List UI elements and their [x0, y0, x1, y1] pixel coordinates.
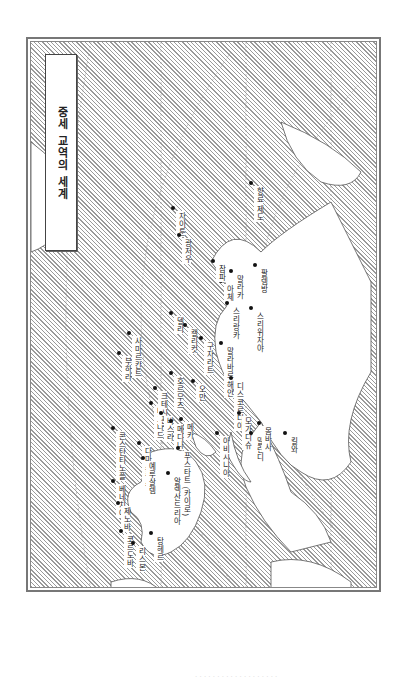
place-marker-icon — [153, 386, 157, 390]
place-label: 푸스타트 (카이로) — [181, 451, 190, 517]
map-area: 중세 교역의 세계 자이툰광저우향료 제도말라카팔렘방아체스리위자야참파스리랑카… — [30, 41, 377, 588]
place-marker-icon — [283, 431, 287, 435]
place-label: 리스본 — [136, 546, 145, 572]
place-marker-icon — [179, 417, 183, 421]
place-marker-icon — [237, 411, 241, 415]
place-marker-icon — [141, 456, 145, 460]
place-marker-icon — [225, 301, 229, 305]
place-marker-icon — [169, 311, 173, 315]
place-label: 아비시니아 — [220, 436, 229, 478]
map-frame: 중세 교역의 세계 자이툰광저우향료 제도말라카팔렘방아체스리위자야참파스리랑카… — [26, 37, 381, 592]
place-label: 스리랑카 — [230, 306, 239, 340]
place-marker-icon — [257, 421, 261, 425]
place-label: 구자라트 — [204, 341, 213, 375]
place-label: 콘스탄티노플 — [116, 431, 125, 481]
place-label: 코르도바 — [124, 534, 133, 568]
place-marker-icon — [169, 419, 173, 423]
footer-caption: · · · · · · · · · · · · · · · · · · · — [195, 673, 277, 681]
place-marker-icon — [159, 411, 163, 415]
place-marker-icon — [169, 371, 173, 375]
place-marker-icon — [111, 426, 115, 430]
place-label: 알렉산드리아 — [171, 476, 180, 526]
place-label: 탕헤르 — [154, 536, 163, 562]
place-marker-icon — [215, 431, 219, 435]
place-marker-icon — [177, 233, 181, 237]
place-marker-icon — [249, 431, 253, 435]
place-label: 델리 — [174, 316, 183, 334]
place-label: 아체 — [224, 284, 233, 302]
place-marker-icon — [116, 501, 120, 505]
place-marker-icon — [117, 351, 121, 355]
place-label: 말라바르 해안 — [224, 346, 233, 398]
place-label: 몸바사 — [262, 426, 271, 452]
place-marker-icon — [249, 181, 253, 185]
place-marker-icon — [176, 446, 180, 450]
place-label: 사마르칸트 — [132, 336, 141, 378]
place-marker-icon — [119, 529, 123, 533]
place-marker-icon — [183, 323, 187, 327]
place-marker-icon — [166, 471, 170, 475]
place-label: 제노바 — [121, 506, 130, 532]
place-marker-icon — [199, 336, 203, 340]
place-label: 킬와 — [288, 436, 297, 454]
place-marker-icon — [149, 531, 153, 535]
place-marker-icon — [137, 441, 141, 445]
place-label: 팔렘방 — [258, 268, 267, 294]
place-marker-icon — [127, 331, 131, 335]
place-marker-icon — [111, 479, 115, 483]
place-marker-icon — [149, 401, 153, 405]
place-marker-icon — [211, 259, 215, 263]
place-marker-icon — [253, 263, 257, 267]
map-title-box: 중세 교역의 세계 — [45, 54, 77, 251]
map-title: 중세 교역의 세계 — [53, 106, 69, 200]
place-marker-icon — [249, 306, 253, 310]
place-label: 말라카 — [234, 274, 243, 300]
place-label: 오만 — [196, 384, 205, 402]
place-label: 스리위자야 — [254, 311, 263, 353]
place-label: 광저우 — [182, 238, 191, 264]
place-marker-icon — [229, 269, 233, 273]
place-marker-icon — [229, 376, 233, 380]
place-label: 부하라 — [122, 356, 131, 382]
place-label: 캘리컷 — [188, 328, 197, 354]
place-label: 예루살렘 — [146, 461, 155, 495]
place-marker-icon — [191, 379, 195, 383]
place-marker-icon — [219, 341, 223, 345]
place-label: 메카 — [184, 422, 193, 440]
place-label: 참파 — [216, 264, 225, 282]
place-marker-icon — [171, 206, 175, 210]
place-marker-icon — [131, 541, 135, 545]
place-label: 호르무즈 — [174, 376, 183, 410]
place-label: 향료 제도 — [254, 186, 263, 222]
map-outline — [31, 42, 377, 588]
